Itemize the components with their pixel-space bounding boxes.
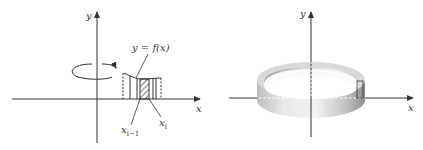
right-x-label: x [408, 102, 414, 113]
hatched-strip [140, 79, 149, 99]
right-y-label: y [299, 8, 306, 19]
left-figure: y x y = f(x) xi−1 xi [12, 10, 202, 143]
right-figure: y x [229, 8, 414, 137]
curve-leader-line [136, 54, 148, 78]
left-y-label: y [85, 10, 92, 21]
curve-label: y = f(x) [131, 42, 170, 53]
x-i-leader [149, 99, 161, 117]
x-i-label: xi [159, 117, 168, 131]
left-x-label: x [196, 103, 202, 114]
rotation-arrow-icon [72, 64, 116, 79]
x-i-minus-1-label: xi−1 [121, 124, 139, 138]
x-i-minus-1-leader [131, 99, 140, 125]
figure-canvas: y x y = f(x) xi−1 xi [0, 0, 423, 150]
